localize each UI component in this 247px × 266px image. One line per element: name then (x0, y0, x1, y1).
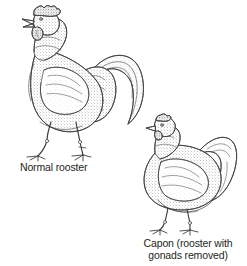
capon-comb (156, 114, 171, 121)
normal-rooster-caption: Normal rooster (20, 162, 140, 174)
figure-container: Normal rooster (0, 0, 247, 266)
rooster-comb (34, 6, 61, 17)
capon-illustration (128, 112, 246, 237)
capon-eye (161, 124, 164, 127)
capon-beak (146, 126, 155, 131)
capon-wattles (155, 131, 163, 140)
rooster-eye (40, 18, 43, 21)
rooster-wattles (32, 27, 43, 40)
rooster-body (29, 50, 103, 132)
capon-caption: Capon (rooster with gonads removed) (129, 238, 247, 261)
capon-body (144, 145, 221, 212)
rooster-beak (22, 19, 34, 27)
capon-drawing (128, 112, 246, 237)
